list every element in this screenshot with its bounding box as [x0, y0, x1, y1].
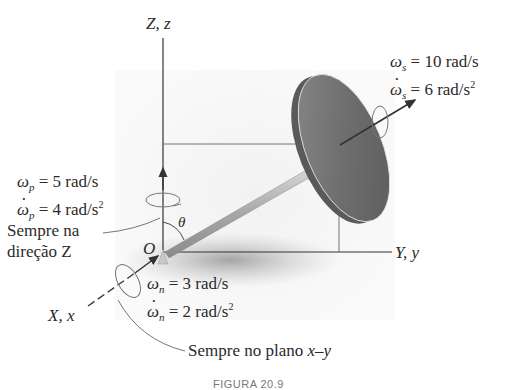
nutation-omega-dot-label: ω·n = 2 rad/s2 — [147, 298, 233, 326]
origin-label: O — [143, 240, 155, 258]
precession-omega-dot-label: ω·p = 4 rad/s2 — [17, 196, 103, 224]
theta-label: θ — [178, 213, 185, 231]
z-axis-label: Z, z — [146, 15, 171, 33]
figure-caption: FIGURA 20.9 — [213, 378, 284, 390]
x-axis-label: X, x — [48, 307, 74, 325]
precession-omega-label: ωp = 5 rad/s — [17, 173, 98, 196]
z-direction-note-line2: direção Z — [7, 243, 72, 261]
spin-omega-dot-label: ω·s = 6 rad/s2 — [390, 76, 475, 104]
z-direction-note-line1: Sempre na — [7, 222, 79, 240]
xy-plane-note: Sempre no plano x–y — [188, 342, 331, 360]
spin-omega-label: ωs = 10 rad/s — [390, 53, 479, 76]
nutation-omega-label: ωn = 3 rad/s — [147, 275, 228, 298]
y-axis-label: Y, y — [395, 244, 419, 262]
